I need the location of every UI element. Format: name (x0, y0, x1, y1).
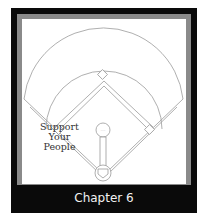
support-your-people-label: Support Your People (32, 122, 87, 152)
label-line-2: Your People (32, 132, 87, 152)
chapter-caption: Chapter 6 (11, 186, 197, 213)
inner-border: —— Support Your People (17, 14, 191, 185)
field-canvas: —— Support Your People (22, 19, 186, 184)
svg-text:——: —— (101, 129, 107, 132)
chapter-card: —— Support Your People Chapter 6 (11, 8, 197, 213)
baseball-diagram: —— (22, 19, 186, 184)
